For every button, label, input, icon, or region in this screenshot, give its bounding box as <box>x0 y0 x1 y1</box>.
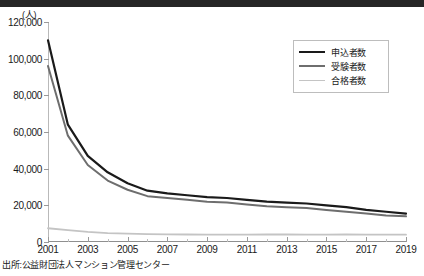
legend-item[interactable]: 申込者数 <box>299 45 383 59</box>
chart-legend: 申込者数受験者数合格者数 <box>293 40 389 93</box>
x-tick-label: 2007 <box>157 244 178 255</box>
y-tick-label: 80,000 <box>13 90 42 101</box>
x-tick-label: 2013 <box>276 244 297 255</box>
x-tick-label: 2003 <box>77 244 98 255</box>
legend-line-swatch <box>299 65 325 67</box>
legend-item-label: 申込者数 <box>331 46 366 59</box>
legend-item-label: 受験者数 <box>331 60 366 73</box>
x-tick-label: 2011 <box>237 244 257 255</box>
chart-page: (人) 020,00040,00060,00080,000100,000120,… <box>0 0 424 276</box>
x-tick-label: 2019 <box>395 244 416 255</box>
x-tick-mark <box>406 237 407 242</box>
legend-item[interactable]: 受験者数 <box>299 59 383 73</box>
y-tick-mark <box>44 242 49 243</box>
y-tick-label: 100,000 <box>8 53 42 64</box>
legend-item[interactable]: 合格者数 <box>299 73 383 87</box>
legend-line-swatch <box>299 51 325 53</box>
scan-edge-bar <box>0 0 424 7</box>
series-line <box>48 228 406 234</box>
legend-item-label: 合格者数 <box>331 74 366 87</box>
x-tick-label: 2009 <box>197 244 218 255</box>
source-note: 出所:公益財団法人マンション管理センター <box>2 258 170 271</box>
y-tick-label: 40,000 <box>13 163 42 174</box>
x-tick-label: 2005 <box>117 244 138 255</box>
y-tick-label: 20,000 <box>13 200 42 211</box>
x-tick-label: 2001 <box>37 244 58 255</box>
x-tick-label: 2015 <box>316 244 337 255</box>
x-tick-label: 2017 <box>356 244 377 255</box>
legend-line-swatch <box>299 80 325 81</box>
y-tick-label: 120,000 <box>8 17 42 28</box>
y-tick-label: 60,000 <box>13 127 42 138</box>
